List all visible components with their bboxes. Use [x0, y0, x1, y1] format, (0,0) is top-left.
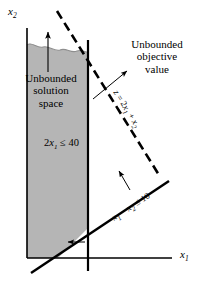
solution-space-label-line1: Unbounded [16, 72, 86, 84]
diagonal-constraint-arrow [119, 171, 130, 190]
objective-value-label-line1: Unbounded [116, 38, 198, 50]
solution-space-label-line2: solution [16, 84, 86, 96]
objective-value-label-line2: objective [116, 50, 198, 62]
y-axis-label: x2 [8, 5, 17, 21]
objective-value-label-line3: value [116, 63, 198, 75]
solution-space-label-line3: space [16, 97, 86, 109]
unbounded-lp-diagram: x2 x1 Unbounded solution space Unbounded… [0, 0, 201, 283]
objective-value-label: Unbounded objective value [116, 38, 198, 75]
x-axis-label: x1 [180, 248, 189, 264]
vertical-constraint-label: 2x1 ≤ 40 [44, 137, 79, 152]
solution-space-label: Unbounded solution space [16, 72, 86, 109]
